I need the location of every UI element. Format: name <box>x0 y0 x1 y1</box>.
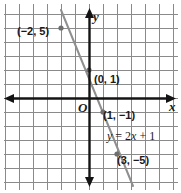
point-label-0-1: (0, 1) <box>94 74 120 85</box>
point-label-neg2-5: (−2, 5) <box>17 26 49 37</box>
point-label-1-neg1: (1, −1) <box>103 110 135 121</box>
equation-label-operator: = 2 <box>112 129 131 143</box>
y-axis-arrow-down <box>85 177 94 187</box>
coordinate-graph-figure: (−2, 5) (0, 1) (1, −1) (3, −5) y = 2x + … <box>0 0 181 193</box>
y-axis-label: y <box>93 10 99 23</box>
point-label-3-neg5: (3, −5) <box>117 155 149 166</box>
equation-label-tail: + 1 <box>136 129 155 143</box>
origin-label: O <box>78 101 87 114</box>
equation-label: y = 2x + 1 <box>107 130 155 142</box>
x-axis-arrow-left <box>4 94 14 103</box>
x-axis-label: x <box>169 100 176 113</box>
